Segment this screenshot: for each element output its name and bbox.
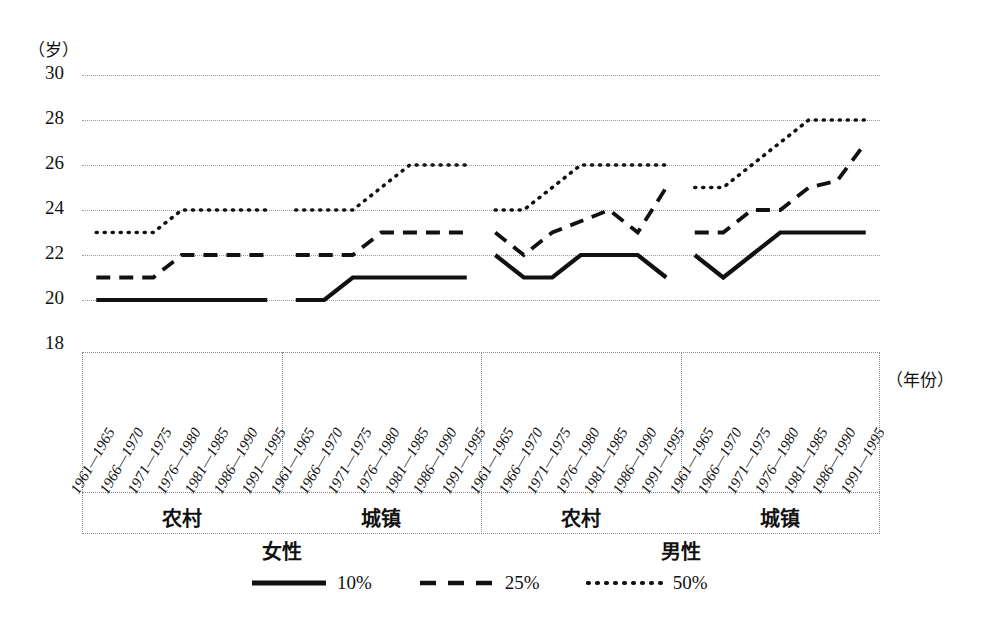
x-axis-title: （年份） — [886, 366, 954, 391]
legend-swatch-solid-icon — [250, 576, 328, 590]
area-label-2: 农村 — [481, 503, 681, 532]
legend-item-25%: 25% — [418, 572, 540, 594]
line-女性-城镇-25% — [296, 233, 467, 256]
area-label-0: 农村 — [82, 503, 282, 532]
area-label-1: 城镇 — [282, 503, 482, 532]
legend-swatch-dashed-icon — [418, 576, 496, 590]
sex-label-0: 女性 — [82, 536, 481, 565]
line-男性-城镇-10% — [695, 233, 866, 278]
legend-item-50%: 50% — [586, 572, 708, 594]
line-男性-农村-25% — [495, 188, 666, 256]
legend-label-25%: 25% — [505, 572, 540, 594]
line-女性-农村-50% — [96, 210, 267, 233]
legend-label-10%: 10% — [337, 572, 372, 594]
line-女性-城镇-50% — [296, 165, 467, 210]
chart-canvas: （岁） 30282624222018 1961—19651966—1970197… — [0, 0, 988, 636]
legend-item-10%: 10% — [250, 572, 372, 594]
line-女性-农村-25% — [96, 255, 267, 278]
area-label-3: 城镇 — [681, 503, 881, 532]
legend-swatch-dotted-icon — [586, 576, 664, 590]
line-女性-城镇-10% — [296, 278, 467, 301]
sex-label-1: 男性 — [481, 536, 880, 565]
chart-legend: 10%25%50% — [250, 572, 707, 594]
legend-label-50%: 50% — [673, 572, 708, 594]
line-男性-农村-50% — [495, 165, 666, 210]
line-男性-农村-10% — [495, 255, 666, 278]
